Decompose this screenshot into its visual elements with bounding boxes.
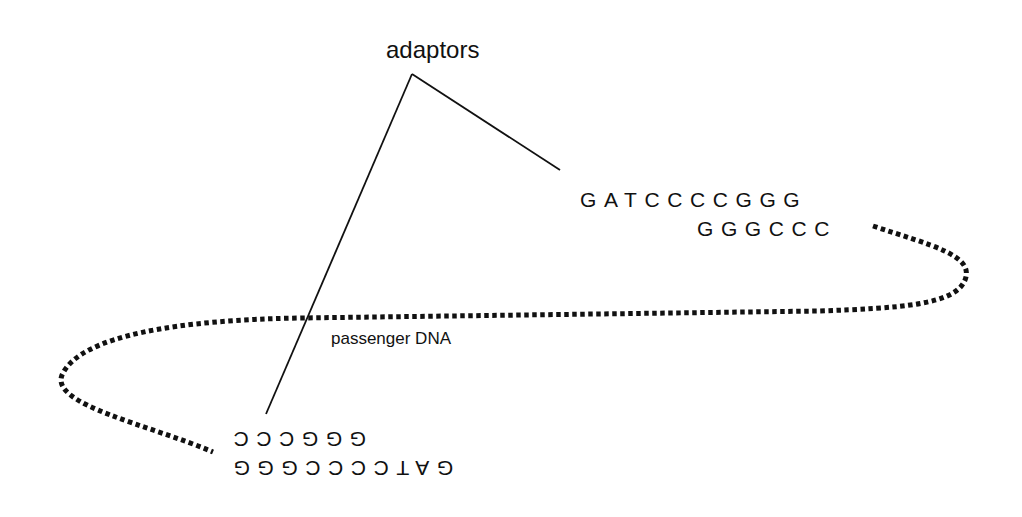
passenger-dna-dotted-loop: [61, 226, 966, 452]
top-adaptor-strand-2: GGGCCC: [697, 218, 837, 239]
passenger-dna-label: passenger DNA: [331, 329, 451, 349]
bottom-adaptor-strand-2-text: GATCCCCGGG: [226, 458, 453, 479]
diagram-canvas: [0, 0, 1022, 517]
bottom-adaptor-strand-1-text: GGGCCC: [226, 429, 366, 450]
bottom-adaptor-strand-1: GGGCCC: [226, 429, 366, 450]
pointer-line-top-adaptor: [412, 74, 560, 170]
bottom-adaptor-strand-2: GATCCCCGGG: [226, 458, 453, 479]
top-adaptor-strand-1: GATCCCCGGG: [580, 189, 807, 210]
pointer-line-bottom-adaptor: [266, 74, 412, 414]
adaptors-label: adaptors: [386, 36, 479, 64]
